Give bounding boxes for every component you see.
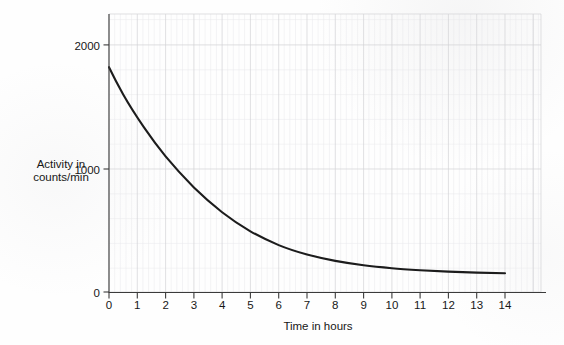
x-tick-label: 5: [247, 299, 253, 311]
x-tick-label: 13: [470, 299, 483, 311]
x-tick-label: 1: [134, 299, 140, 311]
y-axis-title-line1: Activity in: [37, 158, 86, 170]
x-tick-label: 2: [162, 299, 168, 311]
x-tick-label: 7: [304, 299, 310, 311]
activity-decay-chart: 0 1 2 3 4 5 6 7 8 9 10 11 12 13 14 0 100…: [0, 0, 564, 345]
figure-container: 0 1 2 3 4 5 6 7 8 9 10 11 12 13 14 0 100…: [0, 0, 564, 345]
axes-group: [109, 14, 547, 293]
y-tick-label: 2000: [74, 40, 100, 52]
x-tick-label: 6: [275, 299, 281, 311]
x-tick-label: 4: [219, 299, 226, 311]
x-tick-label: 10: [386, 299, 399, 311]
y-axis-tick-marks: [104, 45, 110, 292]
x-axis-tick-labels: 0 1 2 3 4 5 6 7 8 9 10 11 12 13 14: [106, 299, 512, 311]
x-axis-title: Time in hours: [283, 320, 352, 332]
grid-major-lines: [109, 14, 541, 292]
x-tick-label: 12: [442, 299, 455, 311]
x-tick-label: 11: [414, 299, 426, 311]
grid-minor-lines: [109, 14, 541, 292]
x-tick-label: 8: [332, 299, 338, 311]
x-tick-label: 3: [191, 299, 197, 311]
y-axis-title-line2: counts/min: [33, 171, 89, 183]
y-tick-label: 0: [94, 287, 100, 299]
x-tick-label: 0: [106, 299, 112, 311]
x-tick-label: 9: [360, 299, 366, 311]
x-axis-tick-marks: [109, 293, 505, 299]
x-tick-label: 14: [499, 299, 512, 311]
